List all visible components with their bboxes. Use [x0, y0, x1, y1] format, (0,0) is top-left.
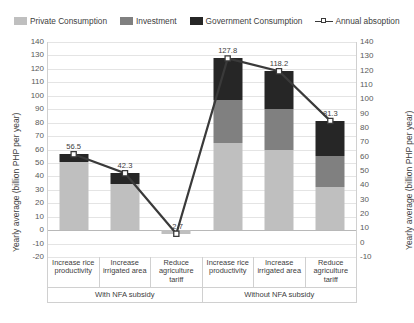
bar-segment-pc[interactable]: [59, 162, 88, 231]
y-tick-right-40: 40: [360, 181, 386, 189]
bar-segment-pc[interactable]: [110, 184, 139, 230]
stacked-bar[interactable]: [110, 42, 139, 257]
y-tick-right-120: 120: [360, 67, 386, 75]
category-label: Reduce agriculture tariff: [307, 259, 355, 284]
stacked-bar[interactable]: [316, 42, 345, 257]
stacked-bar[interactable]: [162, 42, 191, 257]
bar-segment-gc[interactable]: [264, 71, 293, 109]
y-tick-right-130: 130: [360, 52, 386, 60]
category-label: Reduce agriculture tariff: [152, 259, 200, 284]
bar-segment-gc[interactable]: [59, 154, 88, 161]
bar-segment-gc[interactable]: [316, 121, 345, 156]
bar-segment-pc[interactable]: [316, 187, 345, 230]
category-label: Increase rice productivity: [204, 259, 252, 276]
y-tick-left-140: 140: [18, 38, 44, 46]
y-tick-left-30: 30: [18, 186, 44, 194]
plot-area: 56.542.3-2.7127.8118.281.3: [47, 42, 357, 257]
bar-segment-pc[interactable]: [213, 143, 242, 230]
y-tick-right-90: 90: [360, 110, 386, 118]
group-label-cell: With NFA subsidy: [48, 288, 203, 302]
bar-segment-pc[interactable]: [162, 230, 191, 234]
y-tick-left-50: 50: [18, 159, 44, 167]
legend-swatch-private-icon: [14, 17, 27, 25]
category-label-cell: Increase rice productivity: [48, 257, 100, 288]
y-tick-left-0: 0: [18, 226, 44, 234]
y-tick-right-100: 100: [360, 95, 386, 103]
category-label-cell: Reduce agriculture tariff: [151, 257, 203, 288]
y-tick-left-10: 10: [18, 213, 44, 221]
bar-segment-inv[interactable]: [316, 156, 345, 187]
bar-slot: 118.2: [253, 42, 304, 257]
y-tick-left--20: -20: [18, 253, 44, 261]
category-row: Increase rice productivityIncrease irrig…: [48, 257, 356, 288]
category-axis: Increase rice productivityIncrease irrig…: [47, 257, 357, 303]
y-tick-left-110: 110: [18, 78, 44, 86]
group-label: With NFA subsidy: [95, 291, 155, 300]
chart-legend: Private Consumption Investment Governmen…: [14, 14, 404, 28]
category-label-cell: Increase rice productivity: [203, 257, 255, 288]
legend-item-investment[interactable]: Investment: [120, 17, 177, 26]
legend-label-investment: Investment: [136, 17, 177, 26]
legend-swatch-government-icon: [190, 17, 203, 25]
legend-label-private: Private Consumption: [30, 17, 107, 26]
legend-label-government: Government Consumption: [206, 17, 303, 26]
y-tick-left--10: -10: [18, 240, 44, 248]
y-tick-left-100: 100: [18, 92, 44, 100]
y-tick-right-10: 10: [360, 224, 386, 232]
legend-item-government-consumption[interactable]: Government Consumption: [190, 17, 303, 26]
y-tick-right-140: 140: [360, 38, 386, 46]
y-tick-right-50: 50: [360, 167, 386, 175]
y-tick-left-20: 20: [18, 199, 44, 207]
stacked-bar[interactable]: [213, 42, 242, 257]
category-label: Increase rice productivity: [49, 259, 97, 276]
y-tick-right-20: 20: [360, 210, 386, 218]
bar-segment-pc[interactable]: [264, 150, 293, 231]
category-label: Increase irrigated area: [101, 259, 149, 276]
group-label: Without NFA subsidy: [244, 291, 314, 300]
y-axis-title-right: Yearly average (billion PHP per year): [404, 111, 414, 250]
y-tick-right-110: 110: [360, 81, 386, 89]
legend-swatch-investment-icon: [120, 17, 133, 25]
bar-segment-gc[interactable]: [213, 58, 242, 100]
group-row: With NFA subsidyWithout NFA subsidy: [48, 288, 356, 302]
bar-slot: 127.8: [202, 42, 253, 257]
stacked-bar[interactable]: [59, 42, 88, 257]
bar-segment-inv[interactable]: [264, 109, 293, 149]
y-tick-right-80: 80: [360, 124, 386, 132]
legend-item-annual-absorption[interactable]: Annual absoption: [315, 17, 399, 26]
legend-line-marker-icon: [315, 17, 333, 26]
y-tick-left-70: 70: [18, 132, 44, 140]
stacked-bar[interactable]: [264, 42, 293, 257]
bar-series-container: 56.542.3-2.7127.8118.281.3: [48, 42, 356, 257]
y-tick-left-40: 40: [18, 172, 44, 180]
legend-label-annual-absorption: Annual absoption: [335, 17, 399, 26]
bar-slot: 42.3: [99, 42, 150, 257]
bar-segment-gc[interactable]: [110, 173, 139, 184]
y-tick-left-60: 60: [18, 146, 44, 154]
y-tick-right-30: 30: [360, 196, 386, 204]
y-tick-left-120: 120: [18, 65, 44, 73]
bar-slot: -2.7: [151, 42, 202, 257]
bar-slot: 56.5: [48, 42, 99, 257]
category-label-cell: Increase irrigated area: [254, 257, 306, 288]
y-tick-right--10: -10: [360, 253, 386, 261]
y-tick-left-80: 80: [18, 119, 44, 127]
bar-slot: 81.3: [305, 42, 356, 257]
y-tick-right-60: 60: [360, 153, 386, 161]
category-label-cell: Reduce agriculture tariff: [306, 257, 357, 288]
group-label-cell: Without NFA subsidy: [203, 288, 357, 302]
y-tick-right-70: 70: [360, 138, 386, 146]
legend-item-private-consumption[interactable]: Private Consumption: [14, 17, 107, 26]
category-label: Increase irrigated area: [255, 259, 303, 276]
y-tick-left-130: 130: [18, 51, 44, 59]
category-label-cell: Increase irrigated area: [100, 257, 152, 288]
y-tick-right-0: 0: [360, 239, 386, 247]
bar-segment-inv[interactable]: [213, 100, 242, 143]
y-tick-left-90: 90: [18, 105, 44, 113]
